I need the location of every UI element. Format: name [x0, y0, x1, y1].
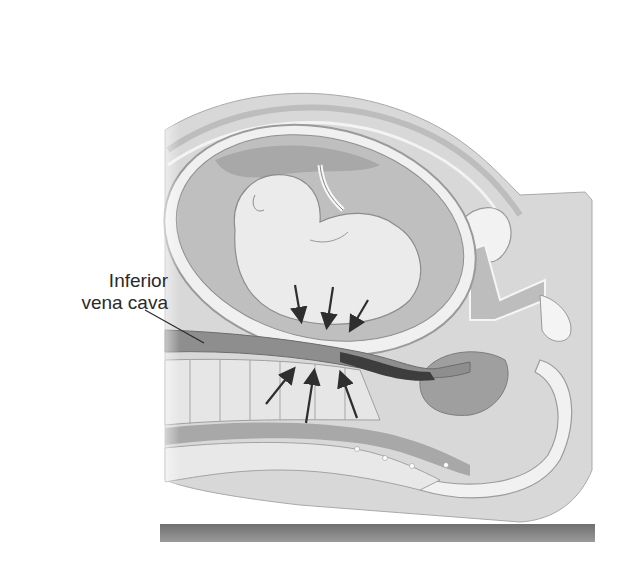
- table-surface: [160, 524, 595, 542]
- inferior-vena-cava-label: Inferior vena cava: [48, 270, 168, 314]
- label-line-1: Inferior: [48, 270, 168, 292]
- label-line-2: vena cava: [48, 292, 168, 314]
